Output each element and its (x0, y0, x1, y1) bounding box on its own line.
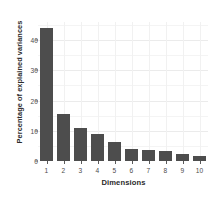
x-axis-title: Dimensions (36, 178, 211, 187)
x-tick-mark (132, 161, 133, 164)
bar (91, 134, 103, 161)
bar (74, 128, 86, 161)
x-tick-mark (64, 161, 65, 164)
x-tick-mark (98, 161, 99, 164)
bar (40, 28, 52, 161)
x-tick-mark (166, 161, 167, 164)
x-tick-mark (47, 161, 48, 164)
plot-panel (38, 22, 208, 161)
x-tick-mark (149, 161, 150, 164)
x-tick-mark (81, 161, 82, 164)
x-tick-label: 10 (190, 167, 210, 174)
bar (108, 142, 120, 161)
bar (159, 151, 171, 161)
bar (125, 149, 137, 161)
x-tick-mark (115, 161, 116, 164)
x-tick-mark (183, 161, 184, 164)
scree-plot: Percentage of explained variances 010203… (0, 0, 214, 197)
bar-series (38, 22, 208, 161)
x-tick-mark (200, 161, 201, 164)
bar (57, 114, 69, 161)
bar (142, 150, 154, 161)
bar (176, 154, 188, 161)
